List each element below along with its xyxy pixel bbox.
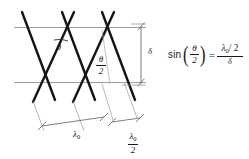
lambda0-half-numerator: λ0 [129,132,136,144]
lambda0-witness-right [73,101,84,131]
sine-function-name: sin [168,49,181,60]
lattice-line-a1 [22,12,55,100]
equals-sign: = [209,49,215,61]
diagram-svg [0,0,249,159]
rhs-numerator-rest: / 2 [229,43,239,53]
diagram-canvas: θ θ 2 δ λ0 λ0 2 sin ( θ 2 ) = λ0/ 2 [0,0,249,159]
lambda0-dimension [33,101,108,131]
theta-half-fraction: θ 2 [96,55,106,76]
theta-angle-label: θ [57,44,61,52]
lambda0-subscript: 0 [77,133,80,140]
lambda0-half-dimension [102,82,144,126]
lambda0-half-dimension-line [112,118,140,122]
equation-arg-denominator: 2 [190,55,199,65]
lambda0-witness-left [33,101,44,131]
lambda0-dimension-line [42,117,104,126]
theta-half-denominator: 2 [99,66,104,76]
lambda0-half-dimension-label: λ0 2 [128,126,138,155]
equation-arg-numerator: θ [190,44,198,54]
equation-argument-fraction: θ 2 [190,44,199,65]
equation: sin ( θ 2 ) = λ0/ 2 δ [168,44,243,66]
theta-half-numerator: θ [99,55,103,65]
lambda0-half-fraction: λ0 2 [128,132,138,155]
equation-rhs-numerator: λ0/ 2 [219,44,240,56]
lambda0-half-denominator: 2 [131,145,136,155]
lambda0-half-subscript: 0 [133,135,136,142]
lambda0-dimension-label: λ0 [73,130,80,141]
delta-dimension-label: δ [148,47,152,56]
theta-half-label: θ 2 [96,49,106,76]
equation-rhs-fraction: λ0/ 2 δ [217,44,243,66]
equation-rhs-denominator: δ [226,57,234,66]
lambda0-half-witness-left [102,84,113,120]
